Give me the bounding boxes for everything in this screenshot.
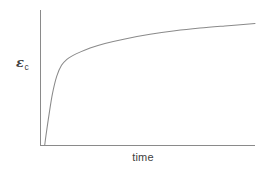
plot-area [0,0,260,172]
y-axis-label-symbol: ε [16,55,24,70]
y-axis-label: εc [16,56,28,69]
creep-strain-curve [45,24,255,146]
y-axis-label-subscript: c [24,62,28,72]
x-axis-label-text: time [132,151,154,163]
x-axis-label: time [0,152,260,163]
creep-curve-figure: εc time [0,0,260,172]
